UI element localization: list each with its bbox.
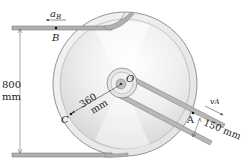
pulley-diagram: aB B O C A vA 800 mm 360 mm 150 mm: [0, 0, 248, 165]
accel-b-label: aB: [50, 8, 61, 21]
point-b-label: B: [51, 32, 59, 43]
inner-dimension-label: 150 mm: [202, 117, 242, 142]
velocity-a-label: vA: [210, 97, 220, 106]
point-a-label: A: [186, 114, 194, 125]
point-c-dot: [70, 113, 73, 116]
height-unit: mm: [2, 91, 21, 102]
bottom-belt: [12, 153, 128, 157]
point-o-label: O: [126, 73, 134, 84]
velocity-a-arrow: [205, 106, 223, 115]
height-value: 800: [2, 79, 21, 90]
point-c-label: C: [61, 114, 69, 125]
point-b-dot: [55, 27, 58, 30]
